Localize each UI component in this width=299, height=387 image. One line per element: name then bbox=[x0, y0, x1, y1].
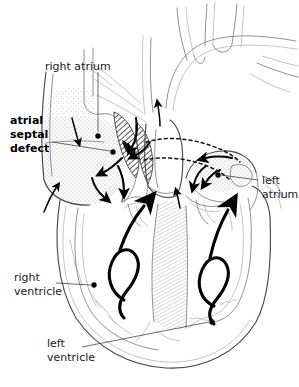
label-right-ventricle-line1: right bbox=[14, 271, 41, 284]
left-ventricle-flow-loop bbox=[199, 258, 228, 324]
label-left-atrium-line1: left bbox=[262, 174, 281, 187]
dot-atrial-septal-defect bbox=[110, 149, 115, 154]
leader-left-ventricle bbox=[82, 322, 209, 347]
right-ventricle-flow-arrow bbox=[120, 206, 144, 250]
dot-right-atrium bbox=[95, 133, 100, 138]
label-atrial-septal-defect-line1: atrial bbox=[10, 114, 43, 127]
label-atrial-septal-defect-line2: septal bbox=[10, 128, 48, 141]
ventricles-outline bbox=[57, 186, 270, 368]
label-right-atrium: right atrium bbox=[45, 60, 111, 73]
pulmonary-outflow-arrow bbox=[158, 106, 160, 126]
label-left-ventricle-line2: ventricle bbox=[47, 351, 95, 364]
left-ventricle-flow-arrow bbox=[210, 210, 228, 258]
right-ventricle-flow-loop bbox=[109, 250, 138, 318]
label-right-ventricle-line2: ventricle bbox=[14, 285, 62, 298]
heart-illustration: right atrium atrial septal defect left a… bbox=[0, 0, 299, 387]
label-left-atrium-line2: atrium bbox=[262, 188, 298, 201]
label-left-ventricle-line1: left bbox=[47, 337, 66, 350]
dot-left-ventricle bbox=[209, 319, 214, 324]
dot-right-ventricle bbox=[91, 282, 96, 287]
label-atrial-septal-defect-line3: defect bbox=[10, 142, 49, 155]
heart-diagram-figure: right atrium atrial septal defect left a… bbox=[0, 0, 299, 387]
great-vessels-group bbox=[93, 2, 298, 122]
dot-left-atrium bbox=[215, 172, 220, 177]
